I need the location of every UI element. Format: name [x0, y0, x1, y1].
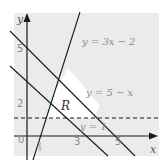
shaded-area	[14, 13, 159, 156]
label-y-5-minus-x: y = 5 − x	[85, 87, 133, 98]
origin-label: 0	[18, 134, 24, 145]
x-tick-2-3: 23	[38, 141, 41, 152]
label-y-1: y = 1	[79, 121, 107, 132]
label-y-3x-minus-2: y = 3x − 2	[81, 36, 136, 47]
y-axis-label: y	[16, 13, 24, 26]
region-label-r: R	[60, 99, 70, 113]
y-tick-2: 2	[17, 98, 23, 109]
x-axis-label: x	[150, 143, 157, 156]
x-tick-5: 5	[115, 136, 121, 147]
graph: y x 0 5 2 23 3 5 y = 3x − 2 y = 5 − x y …	[0, 0, 162, 164]
x-tick-3: 3	[74, 136, 80, 147]
y-tick-5: 5	[17, 43, 23, 54]
